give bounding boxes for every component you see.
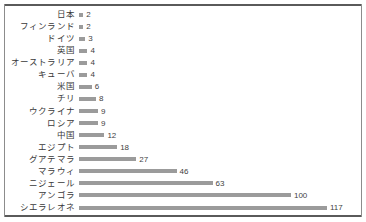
bar-row: ニジェール63	[5, 178, 361, 189]
bar-track: 6	[79, 81, 361, 92]
bar-row: シエラレオネ117	[5, 202, 361, 213]
bar-category-label: チリ	[5, 93, 79, 104]
bar-track: 2	[79, 9, 361, 20]
bar	[79, 61, 87, 65]
chart-frame-bottom-border	[4, 215, 362, 217]
bar-row: エジプト18	[5, 142, 361, 153]
bar-track: 8	[79, 93, 361, 104]
bar-category-label: 米国	[5, 81, 79, 92]
bar-category-label: 英国	[5, 45, 79, 56]
bar-category-label: キューバ	[5, 69, 79, 80]
bar-category-label: エジプト	[5, 142, 79, 153]
bar-value-label: 4	[87, 57, 94, 68]
bar-category-label: ニジェール	[5, 178, 79, 189]
bar-value-label: 46	[177, 166, 189, 177]
bar-track: 3	[79, 33, 361, 44]
bar-row: マラウィ46	[5, 166, 361, 177]
bar-row: ドイツ3	[5, 33, 361, 44]
bar-track: 63	[79, 178, 361, 189]
bar-row: アンゴラ100	[5, 190, 361, 201]
bar	[79, 145, 117, 149]
bar-value-label: 6	[92, 81, 99, 92]
bar	[79, 97, 96, 101]
bar-track: 100	[79, 190, 361, 201]
bar-value-label: 8	[96, 93, 103, 104]
bar-row: ウクライナ9	[5, 106, 361, 117]
bar	[79, 49, 87, 53]
bar-row: 日本2	[5, 9, 361, 20]
bar-category-label: マラウィ	[5, 166, 79, 177]
bar	[79, 109, 98, 113]
bar-row: 英国4	[5, 45, 361, 56]
bar	[79, 193, 291, 197]
bar	[79, 133, 104, 137]
bar-track: 4	[79, 69, 361, 80]
bar-value-label: 2	[83, 21, 90, 32]
bar	[79, 157, 136, 161]
bar-value-label: 100	[291, 190, 307, 201]
bar-value-label: 9	[98, 118, 105, 129]
bar-row: 米国6	[5, 81, 361, 92]
bar-row: ロシア9	[5, 118, 361, 129]
bar-row: 中国12	[5, 130, 361, 141]
bar-value-label: 4	[87, 69, 94, 80]
bar-row: オーストラリア4	[5, 57, 361, 68]
bar-category-label: ウクライナ	[5, 106, 79, 117]
bar-value-label: 27	[136, 154, 148, 165]
bar	[79, 206, 327, 210]
bar-category-label: フィンランド	[5, 21, 79, 32]
bar-value-label: 12	[104, 130, 116, 141]
chart-plot-area: 日本2フィンランド2ドイツ3英国4オーストラリア4キューバ4米国6チリ8ウクライ…	[5, 7, 361, 214]
bar-value-label: 18	[117, 142, 129, 153]
bar-category-label: 中国	[5, 130, 79, 141]
bar	[79, 181, 213, 185]
bar-value-label: 3	[85, 33, 92, 44]
bar-row: グアテマラ27	[5, 154, 361, 165]
bar-track: 9	[79, 106, 361, 117]
bar-category-label: アンゴラ	[5, 190, 79, 201]
bar-category-label: ロシア	[5, 118, 79, 129]
bar-chart: 日本2フィンランド2ドイツ3英国4オーストラリア4キューバ4米国6チリ8ウクライ…	[0, 0, 366, 222]
bar-track: 27	[79, 154, 361, 165]
bar-track: 9	[79, 118, 361, 129]
bar	[79, 73, 87, 77]
bar-category-label: 日本	[5, 9, 79, 20]
bar-value-label: 9	[98, 106, 105, 117]
bar	[79, 169, 177, 173]
bar-category-label: グアテマラ	[5, 154, 79, 165]
bar-row: キューバ4	[5, 69, 361, 80]
bar-row: チリ8	[5, 93, 361, 104]
bar-track: 4	[79, 45, 361, 56]
bar-track: 117	[79, 202, 361, 213]
bar-value-label: 4	[87, 45, 94, 56]
bar-category-label: シエラレオネ	[5, 202, 79, 213]
bar-category-label: ドイツ	[5, 33, 79, 44]
bar-value-label: 63	[213, 178, 225, 189]
bar	[79, 85, 92, 89]
bar-track: 12	[79, 130, 361, 141]
bar-track: 2	[79, 21, 361, 32]
chart-frame-top-border	[4, 4, 362, 6]
bar-track: 46	[79, 166, 361, 177]
chart-frame-right-border	[361, 4, 362, 217]
bar-category-label: オーストラリア	[5, 57, 79, 68]
bar-track: 4	[79, 57, 361, 68]
bar-row: フィンランド2	[5, 21, 361, 32]
bar-value-label: 2	[83, 9, 90, 20]
bar	[79, 121, 98, 125]
bar-value-label: 117	[327, 202, 343, 213]
bar-track: 18	[79, 142, 361, 153]
